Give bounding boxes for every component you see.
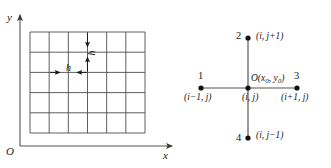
origin-label: O (6, 146, 14, 157)
node-2-number: 2 (236, 31, 241, 42)
center-point-label-tail: ) (281, 73, 284, 83)
node-4-number: 4 (236, 133, 241, 144)
node-dot-2-top (245, 35, 250, 40)
node-dot-1-left (198, 85, 203, 90)
node-1-index-label: (i−1, j) (184, 93, 212, 103)
center-index-label: (i, j) (242, 93, 258, 103)
x-axis-label: x (163, 150, 168, 161)
node-dot-3-right (294, 85, 299, 90)
figure-canvas: y x O h h 2 (i, j+1) 1 (i−1, j) 3 (i+1, … (0, 0, 331, 168)
node-dot-4-bottom (245, 135, 250, 140)
node-2-index-label: (i, j+1) (256, 32, 284, 42)
y-axis-label: y (7, 12, 12, 23)
center-point-label-head: O(x (251, 73, 265, 83)
node-1-number: 1 (198, 71, 203, 82)
node-3-number: 3 (294, 71, 299, 82)
center-point-label-mid: , y (269, 73, 278, 83)
coordinate-axes (20, 15, 172, 146)
horizontal-spacing-label: h (66, 63, 71, 73)
node-dot-center (245, 85, 250, 90)
grid-mesh (30, 32, 145, 133)
center-point-label: O(x0, y0) (251, 74, 284, 85)
node-3-index-label: (i+1, j) (281, 93, 309, 103)
node-4-index-label: (i, j−1) (256, 131, 284, 141)
vertical-spacing-label: h (87, 51, 97, 56)
